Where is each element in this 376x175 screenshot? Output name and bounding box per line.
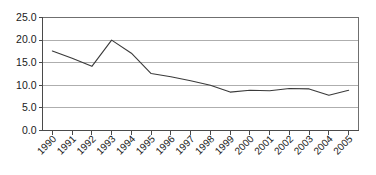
- x-tick-label: 1990: [35, 133, 59, 157]
- x-tick-label: 2001: [252, 133, 276, 157]
- x-tick-label: 1991: [55, 133, 79, 157]
- y-tick-label: 25.0: [16, 11, 37, 23]
- line-chart: 25.020.015.010.05.00.0199019911992199319…: [0, 0, 376, 175]
- x-tick-label: 1992: [74, 133, 98, 157]
- x-axis-ticks-group: 1990199119921993199419951996199719981999…: [35, 131, 355, 157]
- x-tick-label: 1997: [173, 133, 197, 157]
- x-tick-label: 2002: [272, 133, 296, 157]
- x-tick-label: 1999: [213, 133, 237, 157]
- plot-area-border: [43, 18, 359, 131]
- data-series-line: [52, 40, 348, 95]
- x-tick-label: 1994: [114, 133, 138, 157]
- chart-canvas: 25.020.015.010.05.00.0199019911992199319…: [0, 0, 376, 175]
- x-tick-label: 1995: [134, 133, 158, 157]
- x-tick-label: 2005: [331, 133, 355, 157]
- y-tick-label: 20.0: [16, 33, 37, 45]
- y-tick-label: 15.0: [16, 56, 37, 68]
- y-tick-label: 0.0: [22, 124, 37, 136]
- x-tick-label: 1996: [153, 133, 177, 157]
- y-tick-label: 10.0: [16, 79, 37, 91]
- x-tick-label: 1998: [193, 133, 217, 157]
- x-tick-label: 1993: [94, 133, 118, 157]
- x-tick-label: 2000: [232, 133, 256, 157]
- x-tick-label: 2004: [311, 133, 335, 157]
- y-tick-label: 5.0: [22, 101, 37, 113]
- gridlines-group: [43, 18, 359, 108]
- y-axis-ticks-group: 25.020.015.010.05.00.0: [16, 11, 42, 136]
- x-tick-label: 2003: [292, 133, 316, 157]
